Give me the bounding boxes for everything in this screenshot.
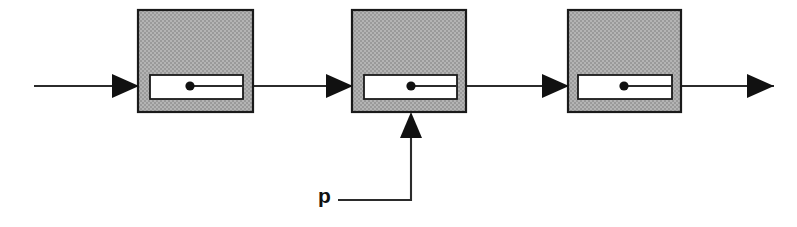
stage-1-node-dot [185,81,194,90]
stage-block-1 [138,10,253,112]
stage-block-3 [568,10,681,112]
diagram-canvas: p [0,0,797,227]
stage-2-node-dot [406,81,415,90]
block-diagram-figure: p [0,0,797,227]
stage-3-node-dot [619,81,628,90]
stage-block-2 [352,10,466,112]
control-input-p-label: p [318,184,331,207]
